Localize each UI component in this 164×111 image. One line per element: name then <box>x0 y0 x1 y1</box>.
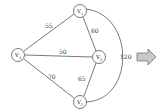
edge-v1-v2 <box>83 17 96 51</box>
weight-v4-v2: 50 <box>59 48 67 55</box>
node-v3: V3 <box>74 96 87 109</box>
weight-v4-v3: 70 <box>48 73 56 80</box>
node-v1: V1 <box>74 5 87 18</box>
edge-v4-v1 <box>24 14 74 51</box>
edge-v2-v3 <box>84 63 96 96</box>
weight-v1-v3: 120 <box>120 53 132 60</box>
weight-v1-v2: 60 <box>91 27 99 34</box>
weight-v2-v3: 65 <box>78 75 86 82</box>
node-v4: V4 <box>12 49 25 62</box>
right-arrow-icon <box>137 49 156 65</box>
node-v2: V2 <box>93 51 106 64</box>
graph-diagram: 55 60 50 70 65 120 V1 V2 V3 V4 <box>0 0 164 111</box>
edge-v4-v2 <box>25 55 92 57</box>
weight-v4-v1: 55 <box>45 22 53 29</box>
